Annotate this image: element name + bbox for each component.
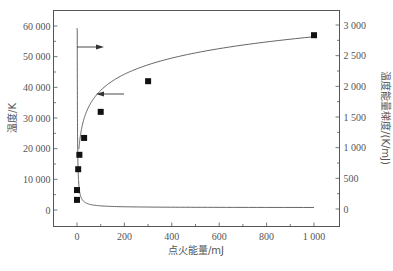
x-tick-label: 600 <box>212 231 227 242</box>
right-tick-label: 2 000 <box>344 81 367 92</box>
right-tick-label: 2 500 <box>344 50 367 61</box>
arrow-right-annotation <box>77 45 104 50</box>
data-marker <box>145 78 151 84</box>
right-tick-label: 1 000 <box>344 142 367 153</box>
data-marker <box>74 197 80 203</box>
gradient-curve <box>77 28 314 207</box>
x-axis-ticks: 02004006008001 000 <box>75 223 326 242</box>
left-tick-label: 20 000 <box>23 143 51 154</box>
plot-frame <box>54 11 340 227</box>
data-marker <box>98 109 104 115</box>
chart: 02004006008001 000 010 00020 00030 00040… <box>0 0 393 271</box>
right-tick-label: 1 500 <box>344 112 367 123</box>
x-tick-label: 800 <box>259 231 274 242</box>
data-marker <box>74 187 80 193</box>
left-tick-label: 40 000 <box>23 82 51 93</box>
data-marker <box>76 152 82 158</box>
right-axis-title: 温度能量梯度/(K/mJ) <box>380 71 392 165</box>
x-tick-label: 400 <box>164 231 179 242</box>
x-tick-label: 200 <box>117 231 132 242</box>
x-axis-title: 点火能量/mJ <box>168 244 224 256</box>
left-tick-label: 0 <box>46 205 51 216</box>
temperature-markers <box>74 32 317 203</box>
right-tick-label: 500 <box>344 173 359 184</box>
left-axis-title: 温度/K <box>6 103 18 133</box>
left-tick-label: 10 000 <box>23 174 51 185</box>
x-tick-label: 0 <box>75 231 80 242</box>
data-marker <box>75 166 81 172</box>
left-tick-label: 30 000 <box>23 113 51 124</box>
left-tick-label: 50 000 <box>23 51 51 62</box>
left-tick-label: 60 000 <box>23 21 51 32</box>
x-tick-label: 1 000 <box>303 231 326 242</box>
right-axis-ticks: 05001 0001 5002 0002 5003 000 <box>336 20 367 215</box>
data-marker <box>81 135 87 141</box>
left-axis-ticks: 010 00020 00030 00040 00050 00060 000 <box>23 21 58 216</box>
temperature-fit-curve <box>79 37 314 150</box>
right-tick-label: 0 <box>344 204 349 215</box>
arrow-left-annotation <box>96 92 124 97</box>
data-marker <box>311 32 317 38</box>
right-tick-label: 3 000 <box>344 20 367 31</box>
